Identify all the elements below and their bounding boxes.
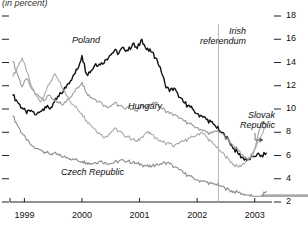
y-tick-label: 2 (286, 196, 291, 206)
series-line-slovak-republic (13, 58, 266, 167)
y-tick-label: 6 (286, 150, 291, 160)
series-label-slovak-republic: Slovak Republic (233, 110, 275, 130)
y-tick-label: 18 (286, 10, 296, 20)
y-tick-label: 12 (286, 80, 296, 90)
y-tick-label: 16 (286, 33, 296, 43)
slovak-label-line-1: Slovak (248, 110, 275, 120)
x-tick-label: 1999 (14, 210, 34, 220)
annotation-line-2: referendum (200, 36, 246, 46)
y-tick-label: 8 (286, 126, 291, 136)
x-tick-label: 2003 (245, 210, 265, 220)
series-label-hungary: Hungary (128, 101, 162, 111)
x-tick-label: 2001 (130, 210, 150, 220)
annotation-line-1: Irish (229, 26, 246, 36)
x-tick-label: 2000 (72, 210, 92, 220)
y-tick-label: 14 (286, 57, 296, 67)
series-label-czech-republic: Czech Republic (61, 167, 124, 177)
x-tick-label: 2002 (187, 210, 207, 220)
y-tick-label: 4 (286, 173, 291, 183)
slovak-label-line-2: Republic (240, 120, 275, 130)
series-label-poland: Poland (72, 35, 100, 45)
y-tick-label: 10 (286, 103, 296, 113)
annotation-irish-referendum: Irish referendum (200, 26, 246, 46)
interest-rate-chart: (in percent) Irish referendum Poland Hun… (0, 0, 308, 231)
series-line-poland (13, 39, 266, 160)
slovak-leader-arrow (260, 138, 264, 143)
